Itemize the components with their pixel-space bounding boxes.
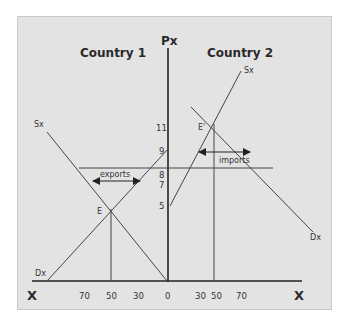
x-tick-left-70: 70 — [79, 291, 90, 301]
country2-demand-label: Dx — [310, 233, 321, 242]
price-tick-11: 11 — [156, 123, 167, 133]
exports-label: exports — [100, 170, 130, 179]
imports-label: imports — [219, 156, 250, 165]
country2-supply-label: Sx — [244, 66, 254, 75]
x-axis-right-label: X — [294, 288, 304, 303]
country1-demand-curve — [47, 149, 168, 281]
x-tick-right-50: 50 — [211, 291, 222, 301]
country2-supply-curve — [170, 71, 241, 206]
country1-equilibrium-label: E — [97, 207, 102, 216]
country2-equilibrium-label: E' — [198, 123, 205, 132]
x-tick-right-70: 70 — [236, 291, 247, 301]
x-tick-origin: 0 — [165, 291, 170, 301]
country2-demand-curve — [191, 107, 313, 232]
x-tick-right-30: 30 — [195, 291, 206, 301]
price-tick-9: 9 — [159, 146, 164, 156]
country1-title: Country 1 — [80, 46, 146, 60]
x-tick-left-30: 30 — [133, 291, 144, 301]
price-tick-8: 8 — [159, 170, 164, 180]
country2-title: Country 2 — [207, 46, 273, 60]
country1-supply-label: Sx — [34, 120, 44, 129]
x-tick-left-50: 50 — [106, 291, 117, 301]
price-tick-5: 5 — [159, 201, 164, 211]
country1-supply-curve — [47, 132, 167, 281]
x-axis-left-label: X — [27, 288, 37, 303]
price-axis-label: Px — [161, 34, 178, 48]
country1-demand-label: Dx — [35, 269, 46, 278]
price-tick-7: 7 — [159, 180, 164, 190]
trade-diagram: Country 1 Country 2 Px Sx Dx E exports S… — [0, 0, 344, 327]
